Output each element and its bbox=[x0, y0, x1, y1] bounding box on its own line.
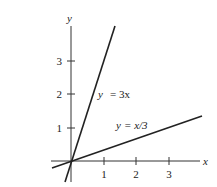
line2-label-var: y bbox=[115, 119, 121, 131]
y-tick-label-2: 2 bbox=[57, 88, 63, 100]
y-tick-label-1: 1 bbox=[57, 122, 63, 134]
x-tick-label-2: 2 bbox=[133, 168, 139, 180]
line-y-equals-3x bbox=[65, 26, 115, 182]
line1-label-var: y bbox=[97, 88, 103, 100]
line1-label-eq: = 3x bbox=[110, 88, 130, 100]
x-tick-label-1: 1 bbox=[101, 168, 107, 180]
x-tick-label-3: 3 bbox=[166, 168, 172, 180]
chart: 1 2 3 1 2 3 x y y = 3x y = x/3 bbox=[0, 0, 217, 187]
y-axis-label: y bbox=[66, 12, 72, 24]
y-tick-label-3: 3 bbox=[57, 55, 63, 67]
x-axis-label: x bbox=[202, 155, 208, 167]
line2-label-eq: = x/3 bbox=[124, 119, 148, 131]
